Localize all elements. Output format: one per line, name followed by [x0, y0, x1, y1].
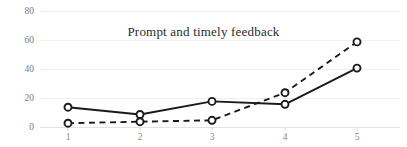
- series-solid-line: [68, 68, 357, 114]
- xaxis-tick-marks: [68, 128, 357, 132]
- y-axis-tick-0: 0: [0, 123, 34, 133]
- y-axis-tick-60: 60: [0, 36, 34, 46]
- y-axis-tick-40: 40: [0, 65, 34, 75]
- x-axis-tick-1: 1: [56, 133, 80, 143]
- y-axis-tick-80: 80: [0, 7, 34, 17]
- series-dashed-markers: [65, 38, 361, 126]
- x-axis-tick-2: 2: [128, 133, 152, 143]
- chart-plot-area: [0, 0, 407, 147]
- y-axis-tick-20: 20: [0, 94, 34, 104]
- series-solid-markers: [65, 65, 361, 118]
- chart-container: Prompt and timely feedback 80 60 40 20 0…: [0, 0, 407, 147]
- x-axis-tick-5: 5: [345, 133, 369, 143]
- chart-title: Prompt and timely feedback: [0, 24, 407, 40]
- x-axis-tick-4: 4: [273, 133, 297, 143]
- x-axis-tick-3: 3: [200, 133, 224, 143]
